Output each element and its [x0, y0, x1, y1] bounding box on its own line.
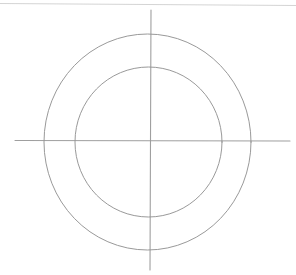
- drawing-surface: [0, 0, 296, 275]
- drawing-canvas: [0, 0, 296, 275]
- horizontal-axis-line: [15, 141, 290, 142]
